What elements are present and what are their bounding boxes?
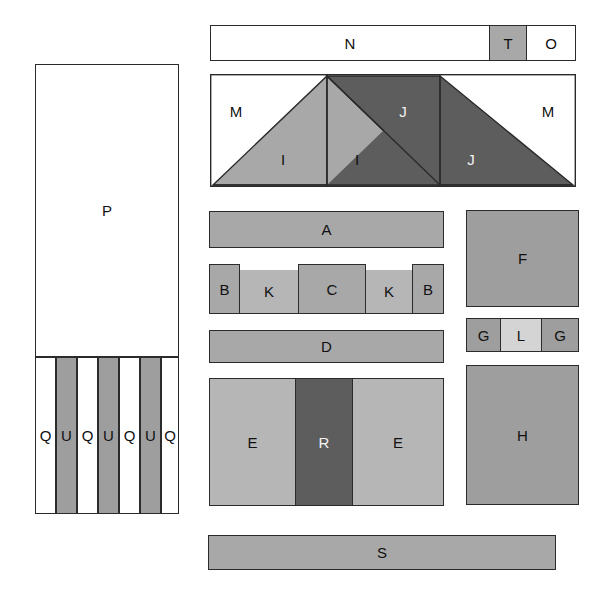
right-box-f-label: F: [518, 251, 527, 266]
gable-m-left-text: M: [230, 104, 243, 119]
left-block-p: P: [35, 64, 179, 357]
left-strip-q-3: Q: [119, 357, 140, 514]
right-box-f: F: [466, 210, 579, 307]
left-strip-label: Q: [164, 428, 176, 443]
center-cell-label: C: [327, 282, 338, 297]
left-strip-q-2: Q: [77, 357, 98, 514]
left-strip-label: U: [61, 428, 72, 443]
center-cell-label: E: [393, 435, 403, 450]
center-cell-label: B: [423, 282, 433, 297]
gable-i-right-text: I: [355, 152, 359, 167]
center-cell-label: K: [384, 284, 394, 299]
right-box-h: H: [466, 365, 579, 505]
header-segment-o-label: O: [545, 36, 557, 51]
left-block-p-label: P: [102, 203, 112, 218]
gable-j-lower-text: J: [467, 152, 475, 167]
left-strip-u-1: U: [56, 357, 77, 514]
diagram-canvas: P Q U Q U Q U Q N T O: [0, 0, 610, 597]
footer-bar-s-label: S: [377, 545, 387, 560]
left-strip-label: U: [145, 428, 156, 443]
center-row-a: A: [209, 211, 444, 248]
gable-i-left-text: I: [281, 152, 285, 167]
center-cell-b-left: B: [209, 264, 240, 314]
right-cell-g-left: G: [466, 318, 501, 352]
left-strip-label: U: [103, 428, 114, 443]
left-strip-label: Q: [40, 428, 52, 443]
center-cell-r: R: [295, 378, 353, 506]
gable-svg: [210, 74, 576, 187]
gable-j-upper-text: J: [399, 104, 407, 119]
left-strip-q-4: Q: [161, 357, 179, 514]
left-strip-u-3: U: [140, 357, 161, 514]
footer-bar-s: S: [208, 535, 556, 570]
left-strip-q-1: Q: [35, 357, 56, 514]
left-strip-u-2: U: [98, 357, 119, 514]
right-cell-label: G: [554, 328, 566, 343]
header-segment-n: N: [210, 25, 490, 61]
center-cell-c: C: [298, 264, 366, 314]
gable-panel: M M I I J J: [210, 74, 576, 187]
center-cell-k-left: K: [239, 270, 299, 314]
center-cell-e-left: E: [209, 378, 296, 506]
center-row-a-label: A: [321, 222, 331, 237]
gable-label-m-right: M: [536, 102, 560, 120]
left-strip-label: Q: [124, 428, 136, 443]
gable-label-j-upper: J: [394, 102, 412, 120]
left-strip-label: Q: [82, 428, 94, 443]
center-cell-e-right: E: [352, 378, 444, 506]
center-cell-label: K: [264, 284, 274, 299]
gable-label-i-left: I: [274, 150, 292, 168]
gable-label-i-right: I: [348, 150, 366, 168]
right-cell-label: L: [517, 328, 525, 343]
gable-label-m-left: M: [224, 102, 248, 120]
header-segment-n-label: N: [345, 36, 356, 51]
header-segment-t: T: [489, 25, 527, 61]
header-segment-t-label: T: [503, 36, 512, 51]
center-row-d-label: D: [321, 339, 332, 354]
center-cell-label: E: [247, 435, 257, 450]
gable-label-j-lower: J: [462, 150, 480, 168]
center-cell-label: B: [219, 282, 229, 297]
center-row-d: D: [209, 330, 444, 363]
center-cell-k-right: K: [365, 270, 413, 314]
header-segment-o: O: [526, 25, 576, 61]
center-cell-label: R: [319, 435, 330, 450]
right-box-h-label: H: [517, 428, 528, 443]
right-cell-g-right: G: [541, 318, 579, 352]
center-cell-b-right: B: [412, 264, 444, 314]
right-cell-l: L: [500, 318, 542, 352]
gable-m-right-text: M: [542, 104, 555, 119]
right-cell-label: G: [478, 328, 490, 343]
